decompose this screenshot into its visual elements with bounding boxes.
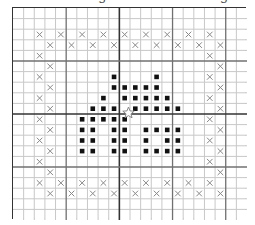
board-cell[interactable] [34, 146, 45, 157]
stone[interactable] [112, 117, 117, 122]
board-cell[interactable] [162, 156, 173, 167]
board-cell[interactable] [162, 82, 173, 93]
board-cell[interactable] [226, 156, 237, 167]
board-cell[interactable] [87, 209, 98, 220]
stone[interactable] [112, 138, 117, 143]
stone[interactable] [154, 75, 159, 80]
board-cell[interactable] [194, 167, 205, 178]
board-cell[interactable] [119, 167, 130, 178]
board-cell[interactable] [130, 178, 141, 189]
board-cell[interactable] [66, 82, 77, 93]
board-cell[interactable] [226, 8, 237, 19]
board-cell[interactable] [194, 135, 205, 146]
board-cell[interactable] [236, 146, 247, 157]
board-cell[interactable] [130, 72, 141, 83]
board-cell[interactable] [194, 146, 205, 157]
board-cell[interactable] [87, 61, 98, 72]
board-cell[interactable] [141, 156, 152, 167]
board-cell[interactable] [24, 103, 35, 114]
board-cell[interactable] [98, 125, 109, 136]
board-cell[interactable] [119, 61, 130, 72]
board-cell[interactable] [141, 167, 152, 178]
board-cell[interactable] [24, 125, 35, 136]
board-cell[interactable] [13, 125, 24, 136]
board-cell[interactable] [130, 146, 141, 157]
board-cell[interactable] [77, 82, 88, 93]
board-cell[interactable] [45, 178, 56, 189]
board-cell[interactable] [215, 8, 226, 19]
board-cell[interactable] [194, 93, 205, 104]
stone[interactable] [80, 149, 85, 154]
board-cell[interactable] [183, 209, 194, 220]
board-cell[interactable] [141, 8, 152, 19]
board-cell[interactable] [151, 156, 162, 167]
stone[interactable] [144, 138, 149, 143]
board-cell[interactable] [183, 146, 194, 157]
board-cell[interactable] [98, 167, 109, 178]
stone[interactable] [154, 128, 159, 133]
board-cell[interactable] [24, 135, 35, 146]
board-cell[interactable] [66, 103, 77, 114]
board-cell[interactable] [204, 209, 215, 220]
board-cell[interactable] [24, 146, 35, 157]
board-cell[interactable] [66, 125, 77, 136]
board-cell[interactable] [215, 72, 226, 83]
board-cell[interactable] [87, 167, 98, 178]
board-cell[interactable] [215, 114, 226, 125]
board-cell[interactable] [87, 72, 98, 83]
board-cell[interactable] [109, 19, 120, 30]
board-cell[interactable] [77, 61, 88, 72]
board-cell[interactable] [109, 199, 120, 210]
stone[interactable] [90, 149, 95, 154]
board-cell[interactable] [109, 167, 120, 178]
board-cell[interactable] [24, 8, 35, 19]
board-cell[interactable] [13, 103, 24, 114]
board-cell[interactable] [66, 61, 77, 72]
board-cell[interactable] [162, 188, 173, 199]
board-cell[interactable] [226, 19, 237, 30]
board-cell[interactable] [87, 199, 98, 210]
stone[interactable] [122, 149, 127, 154]
board-cell[interactable] [151, 167, 162, 178]
board-cell[interactable] [109, 93, 120, 104]
stone[interactable] [90, 128, 95, 133]
board-cell[interactable] [109, 156, 120, 167]
stone[interactable] [154, 96, 159, 101]
stone[interactable] [144, 85, 149, 90]
board-cell[interactable] [45, 19, 56, 30]
board-cell[interactable] [236, 61, 247, 72]
board-cell[interactable] [226, 167, 237, 178]
board-cell[interactable] [13, 82, 24, 93]
board-cell[interactable] [87, 82, 98, 93]
board-cell[interactable] [56, 114, 67, 125]
board-cell[interactable] [98, 19, 109, 30]
board-cell[interactable] [141, 72, 152, 83]
board-cell[interactable] [13, 135, 24, 146]
board-cell[interactable] [66, 19, 77, 30]
board-cell[interactable] [130, 50, 141, 61]
board-cell[interactable] [24, 29, 35, 40]
board-cell[interactable] [226, 40, 237, 51]
board-cell[interactable] [236, 188, 247, 199]
board-cell[interactable] [183, 114, 194, 125]
board-cell[interactable] [194, 156, 205, 167]
board-cell[interactable] [236, 72, 247, 83]
board-cell[interactable] [183, 72, 194, 83]
board-cell[interactable] [194, 19, 205, 30]
board-cell[interactable] [109, 178, 120, 189]
board-cell[interactable] [194, 178, 205, 189]
board-cell[interactable] [162, 50, 173, 61]
stone[interactable] [165, 106, 170, 111]
board-cell[interactable] [56, 8, 67, 19]
board-cell[interactable] [56, 50, 67, 61]
board-cell[interactable] [183, 103, 194, 114]
board-cell[interactable] [236, 167, 247, 178]
board-cell[interactable] [141, 199, 152, 210]
board-cell[interactable] [98, 40, 109, 51]
board-cell[interactable] [13, 199, 24, 210]
stone[interactable] [122, 96, 127, 101]
board-cell[interactable] [45, 209, 56, 220]
board-cell[interactable] [173, 82, 184, 93]
stone[interactable] [154, 149, 159, 154]
board-cell[interactable] [173, 156, 184, 167]
